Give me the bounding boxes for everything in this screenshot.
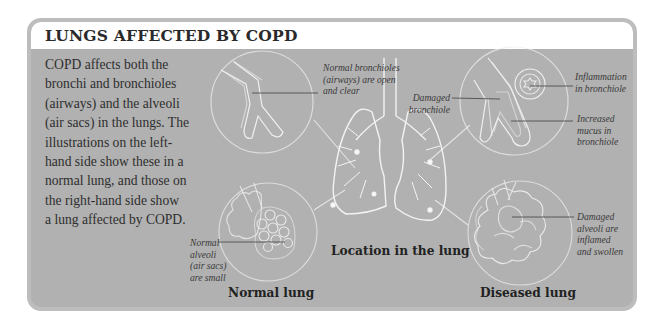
bronchiole-damaged-icon — [460, 47, 568, 155]
label-line: Increased — [577, 113, 618, 125]
label-line: bronchiole — [400, 104, 450, 116]
connector-line — [314, 120, 355, 168]
label-inflammation: Inflammation in bronchiole — [575, 71, 627, 94]
label-normal-alveoli: Normal alveoli (air sacs) are small — [190, 237, 216, 283]
label-line: bronchiole — [577, 136, 618, 148]
illustration-layer — [0, 0, 656, 321]
label-line: in bronchiole — [575, 83, 627, 95]
label-line: Normal — [190, 237, 216, 249]
label-line: alveoli — [190, 249, 216, 261]
label-line: Damaged — [400, 92, 450, 104]
caption-location-in-lung: Location in the lung — [331, 244, 470, 258]
label-line: and swollen — [577, 246, 623, 258]
label-damaged-alveoli: Damaged alveoli are inflamed and swollen — [577, 211, 623, 257]
bronchiole-normal-icon — [211, 51, 313, 153]
label-line: and clear — [323, 85, 400, 97]
label-increased-mucus: Increased mucus in bronchiole — [577, 113, 618, 148]
label-damaged-bronchiole: Damaged bronchiole — [400, 92, 450, 115]
alveoli-damaged-icon — [468, 180, 572, 285]
connector-line — [435, 200, 468, 225]
caption-normal-lung: Normal lung — [228, 286, 314, 300]
label-line: inflamed — [577, 234, 623, 246]
alveoli-normal-icon — [219, 183, 317, 281]
label-line: Normal bronchioles — [323, 62, 400, 74]
caption-diseased-lung: Diseased lung — [480, 286, 576, 300]
label-line: Damaged — [577, 211, 623, 223]
label-normal-bronchioles: Normal bronchioles (airways) are open an… — [323, 62, 400, 97]
label-line: (airways) are open — [323, 74, 400, 86]
label-line: mucus in — [577, 125, 618, 137]
label-line: (air sacs) — [190, 260, 216, 272]
label-line: alveoli are — [577, 223, 623, 235]
bronchiole-cross-section-icon — [515, 69, 545, 99]
leader-line — [452, 98, 500, 99]
label-line: Inflammation — [575, 71, 627, 83]
connector-line — [314, 190, 345, 210]
label-line: are small — [190, 272, 216, 284]
